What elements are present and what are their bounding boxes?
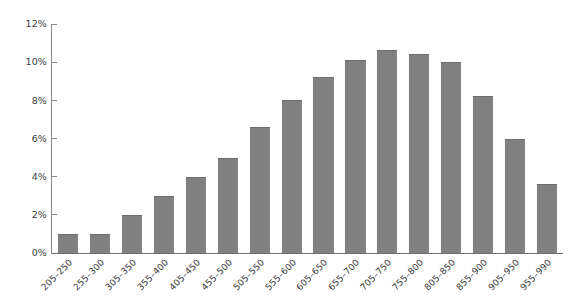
y-axis-tick-label: 0% [32,248,47,258]
bar[interactable] [537,184,557,253]
bar-slot [531,24,563,253]
bar[interactable] [122,215,142,253]
bar-slot [244,24,276,253]
bar-slot [116,24,148,253]
bar-slot [467,24,499,253]
bar-slot [499,24,531,253]
bar-slot [84,24,116,253]
bar-slot [403,24,435,253]
y-axis-tick-label: 8% [32,96,47,106]
bar-slot [371,24,403,253]
bar[interactable] [377,50,397,253]
bar-slot [339,24,371,253]
y-axis-tick-label: 10% [26,57,47,67]
bar-slot [180,24,212,253]
bar[interactable] [186,177,206,253]
bar[interactable] [473,96,493,253]
bar[interactable] [505,139,525,254]
bar[interactable] [154,196,174,253]
y-axis-tick-label: 12% [26,19,47,29]
y-axis-tick-label: 2% [32,210,47,220]
bar-slot [308,24,340,253]
bar[interactable] [281,100,301,253]
bar-slot [148,24,180,253]
bar[interactable] [313,77,333,253]
bar-slot [276,24,308,253]
bar[interactable] [90,234,110,253]
plot-area [52,24,563,253]
y-axis: 0%2%4%6%8%10%12% [0,0,57,304]
bar[interactable] [58,234,78,253]
bar-slot [52,24,84,253]
bar-slot [212,24,244,253]
y-axis-tick-label: 6% [32,134,47,144]
bar[interactable] [345,60,365,253]
bar[interactable] [441,62,461,253]
bar-chart: 0%2%4%6%8%10%12% 205–250255–300305–35035… [0,0,570,304]
bar[interactable] [250,127,270,253]
bar-slot [435,24,467,253]
x-axis-tick: 955–990 [531,254,563,304]
bar[interactable] [409,54,429,253]
x-axis: 205–250255–300305–350355–400405–450455–5… [52,254,563,304]
bar[interactable] [218,158,238,253]
y-axis-tick-label: 4% [32,172,47,182]
